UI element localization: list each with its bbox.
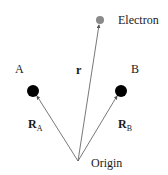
vector-r-a [37,96,78,161]
vector-r-label: r [76,64,81,76]
vector-r-b-subscript: B [127,124,132,133]
nucleus-a [27,85,39,97]
nucleus-a-label: A [15,63,24,75]
nucleus-b [115,85,127,97]
vector-r-a-subscript: A [37,124,43,133]
vector-r [78,25,99,161]
electron-label: Electron [118,14,159,26]
vector-r-a-symbol: R [28,117,37,131]
vector-r-b-label: RB [118,118,132,130]
electron-dot [96,16,104,24]
nucleus-b-label: B [131,63,139,75]
vector-r-b-symbol: R [118,117,127,131]
vector-r-b [78,96,117,161]
vector-r-a-label: RA [28,118,42,130]
origin-label: Origin [91,157,122,169]
